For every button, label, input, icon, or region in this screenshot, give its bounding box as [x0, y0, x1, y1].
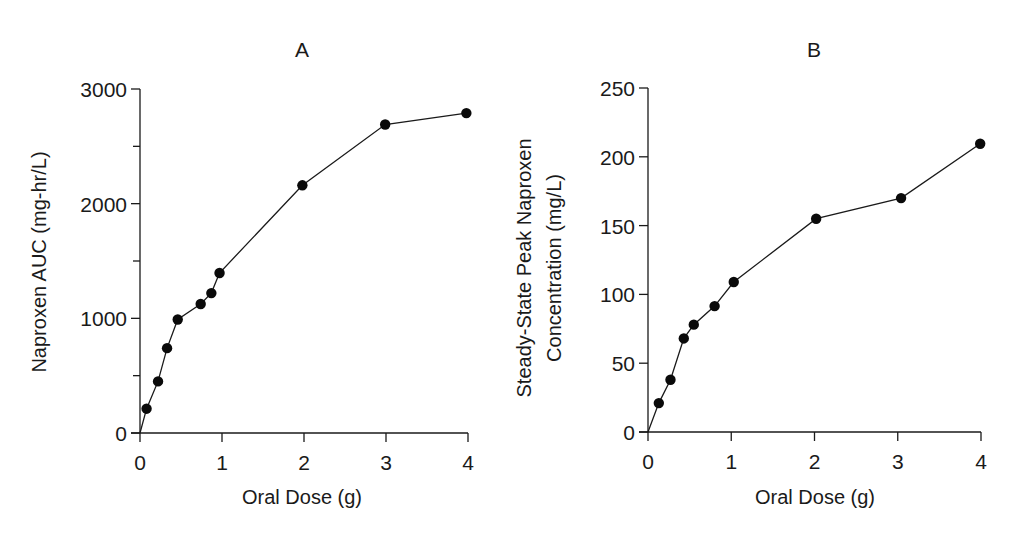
- data-point-marker: [297, 180, 307, 190]
- data-point-marker: [654, 398, 664, 408]
- x-axis-label-b: Oral Dose (g): [755, 486, 875, 508]
- panel-title-b: B: [807, 38, 821, 61]
- x-tick-label: 1: [725, 450, 737, 473]
- figure: A Naproxen AUC (mg-hr/L) Oral Dose (g) 0…: [0, 0, 1013, 544]
- y-tick-label: 100: [600, 283, 635, 306]
- y-tick-label: 150: [600, 215, 635, 238]
- y-tick-label: 1000: [80, 307, 127, 330]
- data-point-marker: [141, 403, 151, 413]
- data-point-marker: [689, 319, 699, 329]
- x-tick-label: 4: [462, 451, 474, 474]
- data-point-marker: [153, 376, 163, 386]
- x-tick-label: 1: [216, 451, 228, 474]
- data-point-marker: [461, 108, 471, 118]
- data-point-marker: [975, 139, 985, 149]
- x-tick-label: 0: [642, 450, 654, 473]
- y-tick-label: 2000: [80, 193, 127, 216]
- data-point-marker: [729, 277, 739, 287]
- data-series-a: [140, 108, 472, 433]
- chart-panel-b: B Steady-State Peak Naproxen Concentrati…: [513, 38, 987, 508]
- data-point-marker: [214, 268, 224, 278]
- data-point-marker: [195, 299, 205, 309]
- y-tick-label: 3000: [80, 78, 127, 101]
- data-point-marker: [162, 343, 172, 353]
- axes-b: 05010015020025001234: [600, 77, 987, 473]
- y-axis-label-a: Naproxen AUC (mg-hr/L): [28, 151, 50, 372]
- series-line: [140, 113, 466, 433]
- chart-panel-a: A Naproxen AUC (mg-hr/L) Oral Dose (g) 0…: [28, 38, 474, 508]
- data-point-marker: [679, 333, 689, 343]
- x-tick-label: 2: [809, 450, 821, 473]
- data-point-marker: [665, 375, 675, 385]
- data-point-marker: [173, 314, 183, 324]
- data-point-marker: [709, 301, 719, 311]
- y-tick-label: 250: [600, 77, 635, 100]
- x-tick-label: 4: [975, 450, 987, 473]
- y-axis-label-b-line2: Concentration (mg/L): [543, 174, 565, 362]
- series-line: [648, 144, 980, 432]
- data-point-marker: [896, 193, 906, 203]
- axes-a: 010002000300001234: [80, 78, 474, 474]
- panel-title-a: A: [295, 38, 309, 61]
- y-tick-label: 0: [115, 422, 127, 445]
- x-axis-label-a: Oral Dose (g): [242, 486, 362, 508]
- y-axis-label-b-line1: Steady-State Peak Naproxen: [513, 138, 535, 397]
- data-point-marker: [811, 214, 821, 224]
- y-tick-label: 200: [600, 146, 635, 169]
- x-tick-label: 0: [134, 451, 146, 474]
- y-tick-label: 0: [623, 421, 635, 444]
- data-point-marker: [380, 119, 390, 129]
- data-series-b: [648, 139, 985, 432]
- x-tick-label: 3: [892, 450, 904, 473]
- x-tick-label: 2: [298, 451, 310, 474]
- x-tick-label: 3: [380, 451, 392, 474]
- y-tick-label: 50: [612, 352, 635, 375]
- data-point-marker: [206, 288, 216, 298]
